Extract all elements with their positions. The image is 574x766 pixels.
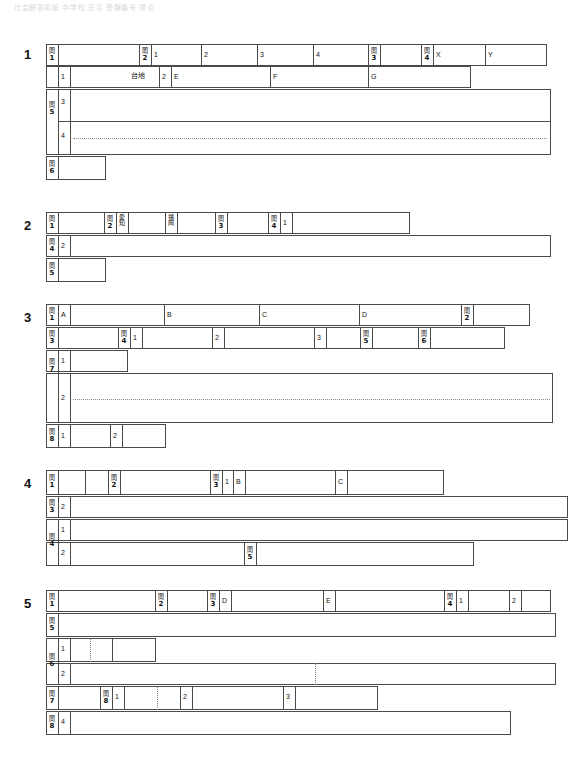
b3-row4-box[interactable]	[46, 373, 553, 423]
label-sub-1h: 1	[61, 526, 65, 533]
kanji-mon: 問	[363, 331, 369, 338]
label-sub-3e: 3	[286, 693, 290, 700]
b5-row5-box[interactable]	[46, 686, 378, 710]
q-number: 3	[214, 482, 219, 489]
b2-r1-div-k	[292, 212, 293, 234]
b5-r5-div-f	[192, 686, 193, 710]
q-number: 4	[448, 601, 453, 608]
b4-row2-box[interactable]	[46, 496, 568, 518]
b5-r1-div-m	[521, 590, 522, 612]
b1-r1-div-c	[151, 44, 152, 66]
b4-r1-div-i	[335, 470, 336, 495]
label-mon-8: 問 8	[46, 424, 58, 448]
q-number: 5	[50, 625, 55, 632]
q-number: 5	[50, 270, 55, 277]
label-mon-4e: 問 4	[46, 530, 58, 552]
label-D2: D	[222, 597, 227, 604]
b2-row1-box[interactable]	[46, 212, 410, 234]
b1-r1-div-k	[485, 44, 486, 66]
b5-r1-div-g	[323, 590, 324, 612]
b3-r5-div-b	[70, 424, 71, 448]
label-mon-8c: 問 8	[46, 711, 58, 735]
b2-row2-box[interactable]	[46, 235, 551, 257]
b3-r2-div-a	[58, 327, 59, 349]
b3-r1-div-c	[164, 304, 165, 326]
label-mon-7b: 問 7	[46, 686, 58, 710]
kanji-mon: 問	[49, 48, 55, 55]
b5-r5-div-d	[124, 686, 125, 710]
b4-row4-box[interactable]	[46, 542, 474, 566]
b3-row2-box[interactable]	[46, 327, 505, 349]
b5-row6-box[interactable]	[46, 711, 511, 735]
label-fukuoka: 福岡	[167, 214, 173, 232]
kanji-mon: 問	[158, 594, 164, 601]
kanji-mon: 問	[49, 429, 55, 436]
b4-r1-div-g	[233, 470, 234, 495]
label-A: A	[61, 311, 66, 318]
label-sub-2h: 2	[61, 549, 65, 556]
q-number: 1	[50, 55, 55, 62]
label-mon-2c: 問 2	[461, 304, 473, 326]
label-F: F	[273, 73, 277, 80]
label-mon-4: 問 4	[421, 44, 433, 66]
label-X: X	[436, 51, 441, 58]
kanji-mon: 問	[49, 308, 55, 315]
kanji-mon: 問	[49, 500, 55, 507]
q-number: 4	[272, 223, 277, 230]
b3-r4-div-b	[70, 373, 71, 423]
label-mon-1: 問 1	[46, 44, 58, 66]
label-sub-1d: 1	[133, 334, 137, 341]
b1-row1-box[interactable]	[46, 44, 547, 66]
label-mon-4c: 問 4	[46, 235, 58, 257]
label-sub-3b: 3	[61, 98, 65, 105]
b3-r1-div-a	[58, 304, 59, 326]
b2-r1-div-a	[58, 212, 59, 234]
b5-row4-box[interactable]	[46, 663, 556, 685]
q-number: 1	[50, 315, 55, 322]
b5-row2-box[interactable]	[46, 613, 556, 637]
b4-r2-div-a	[58, 496, 59, 518]
block-number-3: 3	[24, 311, 31, 324]
q-number: 6	[422, 338, 427, 345]
b3-row1-box[interactable]	[46, 304, 530, 326]
kanji-mon: 問	[49, 216, 55, 223]
b4-row3-box[interactable]	[46, 519, 568, 541]
label-mon-3f: 問 3	[207, 590, 219, 612]
label-sub-2i: 2	[512, 597, 516, 604]
label-mon-5d: 問 5	[244, 542, 256, 566]
label-E2: E	[326, 597, 331, 604]
b1-r1-div-j	[433, 44, 434, 66]
b3-r1-div-b	[70, 304, 71, 326]
kanji-mon: 問	[103, 691, 109, 698]
kanji-mon: 問	[447, 594, 453, 601]
kanji-mon: 問	[210, 594, 216, 601]
b1-row34-box[interactable]	[46, 89, 551, 155]
label-mon-1d: 問 1	[46, 470, 58, 495]
q-number: 2	[465, 315, 470, 322]
label-sub-2e: 2	[61, 394, 65, 401]
b3-r2-div-h	[326, 327, 327, 349]
b5-r5-div-c	[112, 686, 113, 710]
label-sub-4: 4	[316, 51, 320, 58]
label-mon-6: 問 6	[46, 156, 58, 180]
label-daichi: 台地	[131, 73, 145, 80]
q-number: 6	[50, 661, 55, 668]
block-number-1: 1	[24, 48, 31, 61]
label-C2: C	[338, 478, 343, 485]
label-B: B	[167, 311, 172, 318]
q-number: 8	[50, 723, 55, 730]
b2-r2-div-b	[70, 235, 71, 257]
q-number: 3	[372, 55, 377, 62]
b3-r5-div-d	[122, 424, 123, 448]
label-mon-4b: 問 4	[268, 212, 280, 234]
b1-r4-writing-guide	[73, 138, 547, 139]
b3-r4-writing-guide	[73, 399, 550, 400]
b5-r3-dot-a	[90, 638, 91, 662]
b1-row2-box[interactable]	[46, 66, 471, 88]
b5-r4-div-a	[58, 638, 59, 685]
label-sub-2c: 2	[61, 242, 65, 249]
b1-r34-split	[58, 121, 551, 122]
b2-r1-div-h	[227, 212, 228, 234]
b5-row1-box[interactable]	[46, 590, 551, 612]
b3-r1-div-e	[359, 304, 360, 326]
